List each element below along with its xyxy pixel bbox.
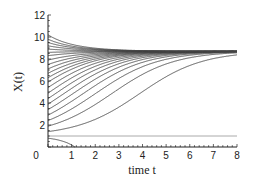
axes: 12345678024681012 bbox=[33, 10, 240, 162]
y-tick-label: 4 bbox=[39, 98, 45, 109]
x-tick-label: 4 bbox=[140, 150, 146, 161]
y-axis-label: X(t) bbox=[11, 72, 25, 92]
y-tick-label: 12 bbox=[34, 10, 46, 21]
x-tick-label: 1 bbox=[69, 150, 75, 161]
chart: 12345678024681012 time t X(t) bbox=[0, 0, 255, 184]
x-tick-label: 5 bbox=[163, 150, 169, 161]
x-tick-label: 7 bbox=[211, 150, 217, 161]
y-tick-label: 2 bbox=[39, 120, 45, 131]
x-axis-label: time t bbox=[128, 163, 156, 177]
y-tick-label: 10 bbox=[34, 32, 46, 43]
series-line bbox=[48, 52, 237, 110]
x-tick-label: 8 bbox=[234, 150, 240, 161]
series-line bbox=[48, 53, 237, 126]
series-line bbox=[48, 138, 75, 147]
y-tick-label: 8 bbox=[39, 54, 45, 65]
y-tick-label: 6 bbox=[39, 76, 45, 87]
x-tick-label: 2 bbox=[92, 150, 98, 161]
x-tick-label: 6 bbox=[187, 150, 193, 161]
curves-group bbox=[48, 35, 237, 147]
origin-label: 0 bbox=[33, 150, 39, 161]
x-tick-label: 3 bbox=[116, 150, 122, 161]
